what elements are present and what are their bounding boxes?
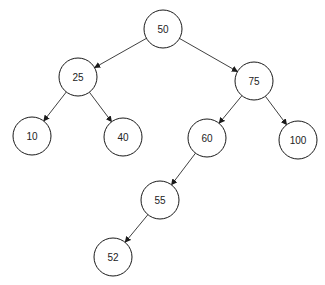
node-label: 100 [290,135,307,146]
tree-diagram: 5025751040601005552 [0,0,325,285]
node-label: 55 [154,195,166,206]
edge-arrow [95,38,147,67]
tree-node: 25 [59,58,97,96]
tree-node: 60 [188,119,226,157]
tree-node: 100 [279,121,317,159]
edge-arrow [171,153,195,185]
node-label: 75 [248,76,260,87]
node-label: 52 [107,252,119,263]
node-label: 60 [201,133,213,144]
tree-node: 50 [144,10,182,48]
tree-node: 10 [13,117,51,155]
edge-arrow [219,96,242,124]
tree-node: 75 [235,62,273,100]
nodes-group: 5025751040601005552 [13,10,317,276]
tree-node: 55 [141,181,179,219]
node-label: 25 [72,72,84,83]
edge-arrow [179,38,237,71]
node-label: 10 [26,131,38,142]
edge-arrow [125,215,148,243]
edge-arrow [44,92,67,121]
tree-node: 52 [94,238,132,276]
edge-arrow [89,92,111,122]
node-label: 40 [117,132,129,143]
tree-node: 40 [104,118,142,156]
node-label: 50 [157,24,169,35]
edge-arrow [265,96,286,125]
